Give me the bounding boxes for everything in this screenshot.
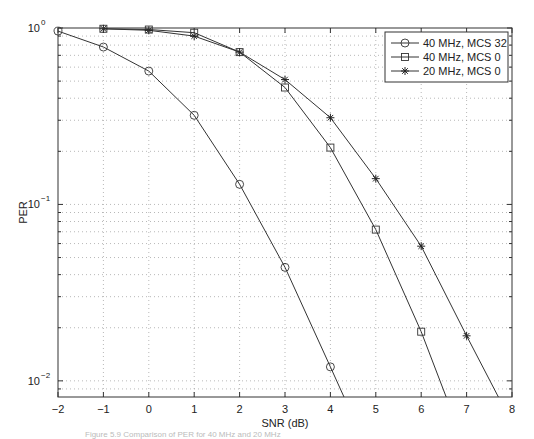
series-circle (58, 31, 344, 397)
x-tick-label: 6 (418, 403, 424, 415)
svg-text:−1: −1 (41, 194, 51, 203)
legend-label: 40 MHz, MCS 32 (423, 37, 507, 49)
star-marker (372, 175, 380, 183)
x-tick-label: −1 (97, 403, 110, 415)
series-line (103, 29, 446, 397)
star-marker (417, 242, 425, 250)
x-tick-label: 1 (191, 403, 197, 415)
legend-label: 20 MHz, MCS 0 (423, 65, 501, 77)
x-tick-label: 5 (373, 403, 379, 415)
series-line (58, 31, 344, 397)
star-marker (190, 32, 198, 40)
x-tick-label: 7 (464, 403, 470, 415)
x-tick-label: −2 (52, 403, 65, 415)
svg-text:10: 10 (28, 22, 40, 34)
y-tick-label: 10−1 (28, 194, 51, 210)
svg-text:10: 10 (28, 198, 40, 210)
y-tick-labels: 10010−110−2 (28, 18, 51, 387)
figure-caption: Figure 5.9 Comparison of PER for 40 MHz … (85, 430, 281, 439)
y-axis-label: PER (17, 201, 29, 224)
x-tick-label: 2 (237, 403, 243, 415)
x-tick-label: 3 (282, 403, 288, 415)
x-tick-labels: −2−1012345678 (52, 403, 515, 415)
svg-text:10: 10 (28, 375, 40, 387)
x-axis-label: SNR (dB) (261, 417, 308, 429)
series-square (103, 29, 446, 397)
y-tick-label: 100 (28, 18, 46, 34)
x-tick-label: 4 (327, 403, 333, 415)
x-tick-label: 0 (146, 403, 152, 415)
x-tick-label: 8 (509, 403, 515, 415)
legend: 40 MHz, MCS 3240 MHz, MCS 020 MHz, MCS 0 (385, 32, 508, 82)
y-tick-label: 10−2 (28, 371, 51, 387)
star-marker (463, 332, 471, 340)
star-marker (401, 67, 409, 75)
legend-label: 40 MHz, MCS 0 (423, 51, 501, 63)
svg-text:−2: −2 (41, 371, 51, 380)
svg-text:0: 0 (41, 18, 46, 27)
per-vs-snr-chart: −2−1012345678 10010−110−2 SNR (dB) PER 4… (0, 0, 534, 439)
star-marker (326, 114, 334, 122)
